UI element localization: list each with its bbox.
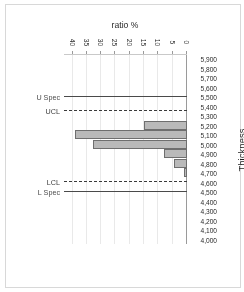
gridline-25: [115, 54, 116, 244]
bar-5100: [75, 130, 187, 139]
category-tick-4600: 4,600: [191, 180, 217, 187]
value-tick-0: 0: [184, 35, 191, 51]
value-tick-10: 10: [155, 35, 162, 51]
category-axis-line: [64, 54, 187, 55]
value-tick-mark-35: [86, 51, 87, 54]
value-tick-mark-20: [129, 51, 130, 54]
bar-4800: [174, 159, 187, 168]
histogram-figure: ratio % Thickness 4,0004,1004,2004,3004,…: [0, 0, 244, 292]
category-tick-5700: 5,700: [191, 75, 217, 82]
category-tick-4800: 4,800: [191, 161, 217, 168]
gridline-40: [72, 54, 73, 244]
category-tick-4000: 4,000: [191, 237, 217, 244]
category-tick-4400: 4,400: [191, 199, 217, 206]
category-tick-4200: 4,200: [191, 218, 217, 225]
gridline-20: [129, 54, 130, 244]
limit-label-lcl: LCL: [47, 178, 60, 187]
value-tick-20: 20: [126, 35, 133, 51]
value-tick-15: 15: [141, 35, 148, 51]
value-tick-40: 40: [69, 35, 76, 51]
value-tick-mark-25: [115, 51, 116, 54]
bar-4700: [184, 168, 187, 177]
category-tick-5500: 5,500: [191, 94, 217, 101]
category-tick-4300: 4,300: [191, 208, 217, 215]
gridline-15: [143, 54, 144, 244]
value-axis-title: ratio %: [104, 20, 148, 30]
value-tick-5: 5: [169, 35, 176, 51]
limit-line-u-spec: [64, 96, 187, 97]
limit-label-l-spec: L Spec: [38, 188, 60, 197]
category-tick-5000: 5,000: [191, 142, 217, 149]
category-tick-4700: 4,700: [191, 170, 217, 177]
limit-label-ucl: UCL: [46, 107, 60, 116]
gridline-35: [86, 54, 87, 244]
value-tick-mark-10: [157, 51, 158, 54]
category-tick-5400: 5,400: [191, 104, 217, 111]
category-tick-5200: 5,200: [191, 123, 217, 130]
category-axis-title: Thickness: [237, 115, 244, 185]
value-tick-30: 30: [98, 35, 105, 51]
bar-5200: [144, 121, 187, 130]
limit-line-l-spec: [64, 191, 187, 192]
rotated-figure-wrapper: ratio % Thickness 4,0004,1004,2004,3004,…: [0, 0, 244, 292]
plot-area: [64, 54, 187, 244]
limit-line-lcl: [64, 181, 187, 182]
category-tick-5600: 5,600: [191, 85, 217, 92]
value-tick-mark-30: [100, 51, 101, 54]
category-tick-4100: 4,100: [191, 227, 217, 234]
category-tick-5100: 5,100: [191, 132, 217, 139]
value-tick-mark-40: [72, 51, 73, 54]
gridline-30: [100, 54, 101, 244]
category-tick-5800: 5,800: [191, 66, 217, 73]
value-tick-25: 25: [112, 35, 119, 51]
value-tick-35: 35: [83, 35, 90, 51]
category-tick-4900: 4,900: [191, 151, 217, 158]
bar-5000: [93, 140, 187, 149]
category-tick-4500: 4,500: [191, 189, 217, 196]
limit-line-ucl: [64, 110, 187, 111]
bar-4900: [164, 149, 187, 158]
category-tick-5900: 5,900: [191, 56, 217, 63]
value-tick-mark-0: [186, 51, 187, 54]
category-tick-5300: 5,300: [191, 113, 217, 120]
value-tick-mark-5: [172, 51, 173, 54]
gridline-10: [157, 54, 158, 244]
limit-label-u-spec: U Spec: [36, 93, 60, 102]
value-tick-mark-15: [143, 51, 144, 54]
